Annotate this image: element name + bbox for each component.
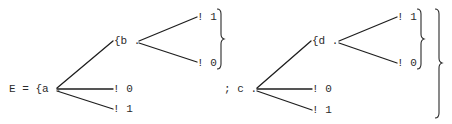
leaf-c-1: ! 1 [312,104,332,116]
expression-prefix: E = {a . [9,83,62,95]
leaf-a-1: ! 1 [113,103,133,115]
leaf-b-1: ! 1 [197,11,217,23]
leaf-d-1: ! 1 [397,11,417,23]
right-brace-b [217,9,224,69]
tree-diagram: E = {a . {b . ! 1 ! 0 ! 0 ! 1 ; c . {d .… [0,0,452,124]
edge-b-to-leaf1 [139,17,197,41]
edge-a-to-leaf1 [57,91,113,109]
edge-c-to-d [257,41,311,88]
edge-a-to-b [57,41,113,88]
leaf-d-0: ! 0 [397,57,417,69]
edge-d-to-leaf1 [339,17,397,41]
leaf-c-0: ! 0 [312,83,332,95]
leaf-a-0: ! 0 [113,83,133,95]
node-d-label: {d . [312,35,338,47]
tree-edges [0,0,452,124]
edge-d-to-leaf0 [339,43,397,63]
edge-c-to-leaf1 [257,91,312,110]
node-b-label: {b . [114,35,140,47]
separator-c: ; c . [224,83,257,95]
right-brace-outer [435,9,442,118]
right-brace-d [417,9,424,69]
leaf-b-0: ! 0 [197,57,217,69]
edge-b-to-leaf0 [139,43,197,62]
